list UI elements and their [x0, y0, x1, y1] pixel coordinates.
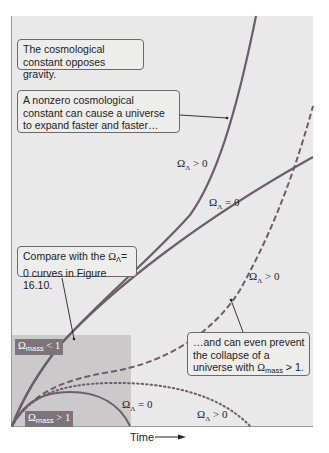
region-tag-mass-less-than-one: Ωmass < 1 [15, 339, 63, 355]
callout-compare: Compare with the ΩΛ= 0 curves in Figure … [17, 246, 137, 277]
x-axis-label: Time [130, 431, 154, 443]
omega-symbol: Ω [177, 157, 185, 169]
relation: > 0 [262, 270, 279, 282]
leader-dot-prevent [230, 299, 233, 302]
relation: < 1 [44, 340, 60, 351]
relation: = 0 [135, 398, 152, 410]
relation: > 1 [54, 412, 70, 423]
leader-dot-compare [73, 338, 76, 341]
omega-symbol: Ω [18, 340, 26, 351]
omega-symbol: Ω [257, 362, 265, 373]
relation: > 0 [210, 408, 227, 420]
callout-expand: A nonzero cosmological constant can caus… [17, 90, 180, 133]
mass-subscript: mass [265, 366, 283, 375]
callout-expand-text: A nonzero cosmological constant can caus… [23, 94, 165, 131]
callout-prevent: …and can even prevent the collapse of a … [187, 332, 310, 376]
omega-symbol: Ω [197, 408, 205, 420]
callout-prevent-suffix: > 1. [283, 361, 304, 373]
omega-symbol: Ω [122, 398, 130, 410]
mass-subscript: mass [36, 416, 54, 425]
time-arrow-head [178, 435, 186, 440]
callout-gravity: The cosmological constant opposes gravit… [17, 39, 144, 70]
callout-compare-prefix: Compare with the [23, 250, 108, 262]
region-tag-mass-greater-than-one: Ωmass > 1 [25, 411, 73, 427]
relation: > 0 [190, 157, 207, 169]
label-lambda-positive-dashed: ΩΛ > 0 [249, 270, 279, 285]
label-lambda-positive-dotted: ΩΛ > 0 [197, 408, 227, 423]
relation: = 0 [222, 196, 239, 208]
label-lambda-positive-solid: ΩΛ > 0 [177, 157, 207, 172]
mass-subscript: mass [26, 344, 44, 353]
omega-symbol: Ω [108, 251, 116, 262]
omega-symbol: Ω [249, 270, 257, 282]
omega-symbol: Ω [28, 412, 36, 423]
omega-symbol: Ω [209, 196, 217, 208]
leader-dot-expand [226, 117, 229, 120]
label-lambda-zero-line: ΩΛ = 0 [209, 196, 239, 211]
label-lambda-zero-closed: ΩΛ = 0 [122, 398, 152, 413]
